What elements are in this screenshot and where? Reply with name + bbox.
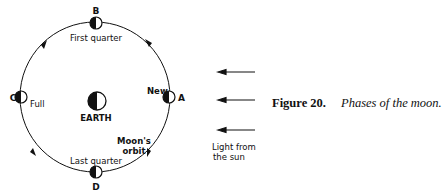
moon-b-icon — [90, 17, 102, 29]
label-last-quarter: Last quarter — [70, 156, 122, 166]
sunlight-arrow-icon — [218, 70, 255, 133]
label-c: C — [10, 93, 17, 103]
label-earth: EARTH — [80, 113, 111, 123]
label-full: Full — [30, 99, 45, 109]
label-new: New — [147, 86, 168, 96]
earth-icon — [88, 92, 106, 110]
figure-caption: Figure 20. Phases of the moon. — [272, 96, 442, 111]
label-sun-2: the sun — [213, 152, 245, 162]
label-orbit-2: orbit — [122, 146, 145, 156]
label-sun-1: Light from — [212, 142, 256, 152]
moon-c-icon — [15, 91, 27, 103]
moon-d-icon — [90, 166, 102, 178]
figure-title: Phases of the moon. — [341, 96, 442, 110]
label-orbit-1: Moon's — [117, 136, 151, 146]
label-b: B — [93, 6, 100, 16]
label-first-quarter: First quarter — [70, 33, 123, 43]
label-a: A — [178, 93, 185, 103]
label-d: D — [92, 182, 99, 192]
figure-number: Figure 20. — [272, 96, 326, 110]
